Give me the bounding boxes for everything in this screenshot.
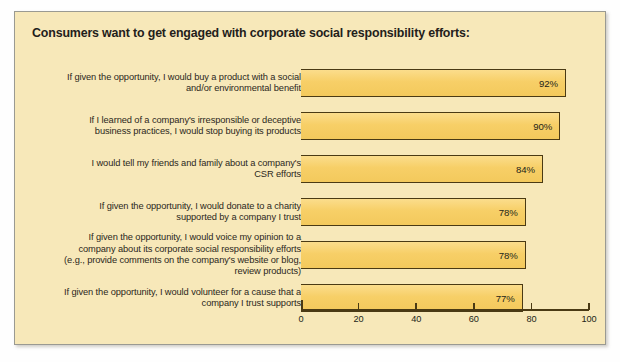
x-axis-tick (473, 303, 475, 310)
bar-value-label: 90% (533, 121, 552, 132)
bar-category-label: If I learned of a company's irresponsibl… (41, 115, 301, 138)
bar-value-label: 77% (496, 293, 515, 304)
bar-category-label-line: If given the opportunity, I would buy a … (41, 72, 301, 83)
bar-category-label-line: CSR efforts (41, 169, 301, 180)
bar-category-label-line: company I trust supports (41, 298, 301, 309)
bar-value-label: 78% (499, 250, 518, 261)
x-axis-tick-label: 100 (581, 314, 596, 324)
bar: 92% (301, 69, 566, 97)
bar-category-label-line: review products) (41, 266, 301, 277)
x-axis-tick (531, 303, 533, 310)
bar-category-label-line: If given the opportunity, I would volunt… (41, 287, 301, 298)
page-title: Consumers want to get engaged with corpo… (32, 26, 572, 41)
x-axis-tick-label: 0 (298, 314, 303, 324)
bar-category-label-line: If given the opportunity, I would voice … (41, 232, 301, 243)
bar-value-label: 92% (539, 78, 558, 89)
x-axis-tick-label: 20 (354, 314, 364, 324)
bar: 90% (301, 112, 560, 140)
bar-category-label-line: (e.g., provide comments on the company's… (41, 255, 301, 266)
bar: 77% (301, 284, 523, 312)
chart-figure: Consumers want to get engaged with corpo… (0, 0, 620, 362)
x-axis-tick-label: 60 (469, 314, 479, 324)
bar-row: If I learned of a company's irresponsibl… (15, 112, 607, 140)
bar-row: If given the opportunity, I would donate… (15, 198, 607, 226)
x-axis-tick (588, 303, 590, 310)
bar-category-label-line: business practices, I would stop buying … (41, 126, 301, 137)
bar-category-label: If given the opportunity, I would buy a … (41, 72, 301, 95)
bar: 78% (301, 241, 526, 269)
x-axis-tick-label: 80 (526, 314, 536, 324)
bar-value-label: 78% (499, 207, 518, 218)
bar-row: If given the opportunity, I would volunt… (15, 284, 607, 312)
bar-category-label-line: company about its corporate social respo… (41, 244, 301, 255)
bar-category-label-line: supported by a company I trust (41, 212, 301, 223)
bar-category-label-line: I would tell my friends and family about… (41, 158, 301, 169)
x-axis-line (301, 309, 589, 311)
bar-category-label-line: and/or environmental benefit (41, 83, 301, 94)
bar-category-label-line: If given the opportunity, I would donate… (41, 201, 301, 212)
bar-row: If given the opportunity, I would buy a … (15, 69, 607, 97)
bar-category-label: If given the opportunity, I would donate… (41, 201, 301, 224)
x-axis-tick (415, 303, 417, 310)
bar-category-label: If given the opportunity, I would voice … (41, 232, 301, 278)
bar: 78% (301, 198, 526, 226)
x-axis-tick-label: 40 (411, 314, 421, 324)
bar-category-label: I would tell my friends and family about… (41, 158, 301, 181)
bar-value-label: 84% (516, 164, 535, 175)
chart-panel: Consumers want to get engaged with corpo… (14, 11, 606, 345)
bar-row: I would tell my friends and family about… (15, 155, 607, 183)
bar-row: If given the opportunity, I would voice … (15, 241, 607, 269)
bar-category-label: If given the opportunity, I would volunt… (41, 287, 301, 310)
bar-category-label-line: If I learned of a company's irresponsibl… (41, 115, 301, 126)
bar: 84% (301, 155, 543, 183)
x-axis-tick (358, 303, 360, 310)
plot-area: If given the opportunity, I would buy a … (15, 55, 607, 345)
